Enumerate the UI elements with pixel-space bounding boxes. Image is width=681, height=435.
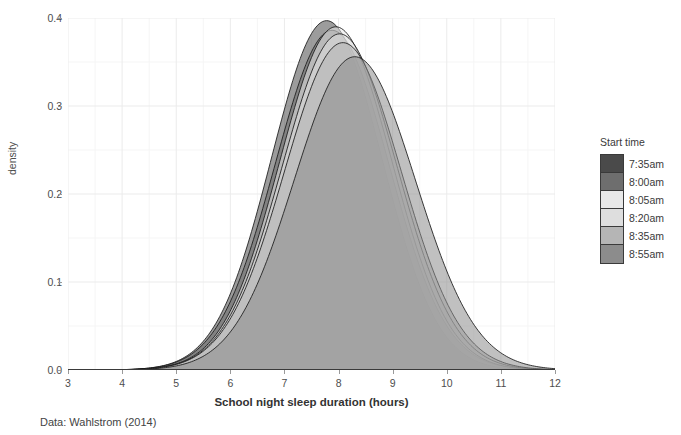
legend-item[interactable]: 7:35am — [601, 155, 623, 173]
y-tick-mark — [58, 18, 62, 19]
x-tick-label: 9 — [390, 377, 396, 389]
legend-swatch — [601, 209, 623, 227]
x-tick-mark — [230, 370, 231, 374]
plot-panel — [68, 18, 555, 370]
y-tick-mark — [58, 370, 62, 371]
x-tick-mark — [393, 370, 394, 374]
y-tick-mark — [58, 282, 62, 283]
legend-label: 7:35am — [629, 158, 664, 170]
y-tick-mark — [58, 194, 62, 195]
legend-swatch — [601, 191, 623, 209]
x-tick-label: 12 — [549, 377, 561, 389]
legend-item[interactable]: 8:00am — [601, 173, 623, 191]
x-tick-mark — [339, 370, 340, 374]
y-tick-mark — [58, 106, 62, 107]
x-tick-label: 11 — [495, 377, 506, 389]
x-tick-mark — [501, 370, 502, 374]
x-tick-label: 3 — [65, 377, 71, 389]
legend-item[interactable]: 8:05am — [601, 191, 623, 209]
legend-swatch — [601, 155, 623, 173]
legend-item[interactable]: 8:55am — [601, 245, 623, 263]
legend-label: 8:00am — [629, 176, 664, 188]
legend-title: Start time — [600, 136, 680, 148]
x-tick-label: 7 — [282, 377, 288, 389]
legend-label: 8:05am — [629, 194, 664, 206]
x-tick-mark — [447, 370, 448, 374]
y-axis-ticks: 0.00.10.20.30.4 — [26, 18, 62, 370]
legend-label: 8:20am — [629, 212, 664, 224]
density-plot-figure: density 0.00.10.20.30.4 3456789101112 Sc… — [0, 0, 681, 435]
x-tick-label: 5 — [173, 377, 179, 389]
legend-items: 7:35am8:00am8:05am8:20am8:35am8:55am — [600, 154, 624, 264]
legend: Start time 7:35am8:00am8:05am8:20am8:35a… — [600, 136, 680, 264]
x-tick-mark — [122, 370, 123, 374]
x-axis-ticks: 3456789101112 — [68, 370, 555, 396]
legend-label: 8:55am — [629, 248, 664, 260]
x-tick-mark — [176, 370, 177, 374]
x-tick-mark — [284, 370, 285, 374]
legend-swatch — [601, 227, 623, 245]
legend-item[interactable]: 8:20am — [601, 209, 623, 227]
x-tick-mark — [555, 370, 556, 374]
x-tick-label: 4 — [119, 377, 125, 389]
density-curves — [68, 18, 555, 370]
legend-label: 8:35am — [629, 230, 664, 242]
figure-caption: Data: Wahlstrom (2014) — [40, 416, 156, 428]
legend-item[interactable]: 8:35am — [601, 227, 623, 245]
y-axis-title: density — [6, 142, 18, 175]
x-tick-label: 10 — [441, 377, 453, 389]
x-tick-label: 6 — [227, 377, 233, 389]
x-tick-mark — [68, 370, 69, 374]
legend-swatch — [601, 173, 623, 191]
x-tick-label: 8 — [336, 377, 342, 389]
x-axis-title: School night sleep duration (hours) — [68, 396, 555, 408]
legend-swatch — [601, 245, 623, 263]
